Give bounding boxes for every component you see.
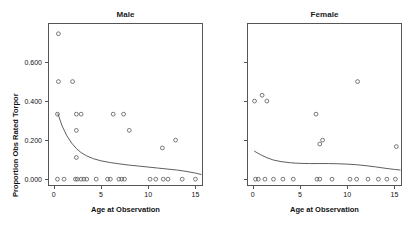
data-point [57,80,61,84]
data-point [166,177,170,181]
x-tick-mark [148,186,149,189]
data-point [74,156,78,160]
x-tick-mark [347,186,348,189]
data-point [56,112,60,116]
data-point [174,138,178,142]
x-tick-label: 5 [99,191,103,198]
x-tick-mark [253,186,254,189]
data-point [253,99,257,103]
panel-female-x-axis-label: Age at Observation [247,205,402,214]
data-point [57,32,61,36]
data-point [56,177,60,181]
y-tick-label: 0.600 [15,59,42,66]
data-point [394,145,398,149]
data-point [161,177,165,181]
x-tick-label: 10 [343,191,351,198]
fit-line [255,151,401,170]
data-point [314,112,318,116]
fit-line [58,114,201,175]
data-point [194,177,198,181]
x-tick-label: 10 [144,191,152,198]
data-point [123,177,127,181]
x-tick-label: 15 [191,191,199,198]
panel-female: Female 051015 Age at Observation [207,0,414,239]
data-point [366,177,370,181]
data-point [122,112,126,116]
data-point [85,177,89,181]
data-point [393,177,397,181]
y-tick-mark [244,62,247,63]
panel-male-x-axis-label: Age at Observation [48,205,203,214]
y-tick-mark [45,101,48,102]
x-tick-label: 0 [251,191,255,198]
data-point [321,138,325,142]
figure-canvas: Proportion Obs Rated Torpor Male 0510150… [0,0,414,239]
x-tick-mark [54,186,55,189]
y-tick-mark [244,179,247,180]
data-point [111,112,115,116]
data-point [108,177,112,181]
y-tick-mark [45,179,48,180]
data-point [180,177,184,181]
data-point [94,177,98,181]
data-point [62,177,66,181]
data-point [127,128,131,132]
data-point [160,146,164,150]
x-tick-label: 5 [298,191,302,198]
data-point [265,99,269,103]
data-point [318,142,322,146]
panel-male: Male 0510150.0000.2000.4000.600 Age at O… [0,0,207,239]
y-tick-label: 0.000 [15,176,42,183]
data-point [260,93,264,97]
data-point [272,177,276,181]
y-tick-mark [45,140,48,141]
x-tick-mark [101,186,102,189]
x-tick-mark [394,186,395,189]
data-point [376,177,380,181]
y-tick-mark [244,101,247,102]
data-point [71,80,75,84]
data-point [356,80,360,84]
data-point [348,177,352,181]
data-point [291,177,295,181]
data-point [148,177,152,181]
x-tick-mark [300,186,301,189]
y-tick-mark [45,62,48,63]
data-point [263,177,267,181]
x-tick-mark [195,186,196,189]
data-point [74,112,78,116]
data-point [355,177,359,181]
data-point [74,128,78,132]
data-point [385,177,389,181]
data-point [79,112,83,116]
y-tick-mark [244,140,247,141]
data-point [318,177,322,181]
panel-female-data-layer [207,0,414,239]
panel-male-data-layer [0,0,207,239]
y-tick-label: 0.200 [15,137,42,144]
data-point [330,177,334,181]
data-point [281,177,285,181]
y-tick-label: 0.400 [15,98,42,105]
x-tick-label: 0 [52,191,56,198]
x-tick-label: 15 [390,191,398,198]
data-point [154,177,158,181]
data-point [256,177,260,181]
